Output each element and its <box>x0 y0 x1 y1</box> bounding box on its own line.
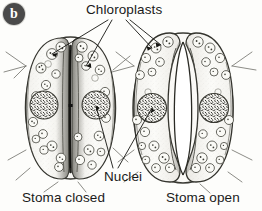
panel-label-text: b <box>10 6 18 22</box>
panel-label-badge: b <box>3 3 25 25</box>
caption-stoma-closed: Stoma closed <box>22 190 105 205</box>
nucleus-open-right <box>200 94 229 123</box>
label-nuclei: Nuclei <box>104 169 142 184</box>
caption-stoma-open: Stoma open <box>166 190 240 205</box>
nucleus-closed-right <box>82 91 110 119</box>
label-chloroplasts: Chloroplasts <box>86 2 162 17</box>
stoma-closed-drawing <box>20 30 121 190</box>
nucleus-closed-left <box>30 91 58 119</box>
stoma-open-drawing <box>128 28 240 190</box>
stomata-figure: b Chloroplasts Nuclei Stoma closed Stoma… <box>0 0 262 211</box>
